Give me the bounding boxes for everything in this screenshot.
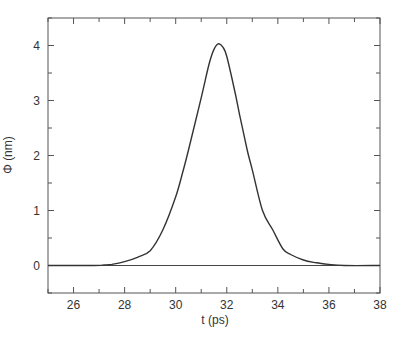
data-curve [48, 44, 380, 266]
tick-labels: 2628303234363801234 [33, 39, 387, 313]
x-tick-label: 30 [169, 298, 183, 312]
y-axis-label: Φ (nm) [1, 136, 15, 174]
x-tick-label: 38 [373, 298, 387, 312]
x-tick-label: 34 [271, 298, 285, 312]
y-tick-label: 3 [33, 94, 40, 108]
y-tick-label: 4 [33, 39, 40, 53]
axis-ticks [48, 18, 380, 293]
x-tick-label: 28 [118, 298, 132, 312]
x-tick-label: 36 [322, 298, 336, 312]
y-tick-label: 0 [33, 259, 40, 273]
y-tick-label: 1 [33, 204, 40, 218]
x-axis-label: t (ps) [201, 313, 228, 327]
line-chart: 2628303234363801234 t (ps) Φ (nm) [0, 0, 400, 340]
plot-frame [48, 18, 380, 293]
x-tick-label: 32 [220, 298, 234, 312]
y-tick-label: 2 [33, 149, 40, 163]
x-tick-label: 26 [67, 298, 81, 312]
